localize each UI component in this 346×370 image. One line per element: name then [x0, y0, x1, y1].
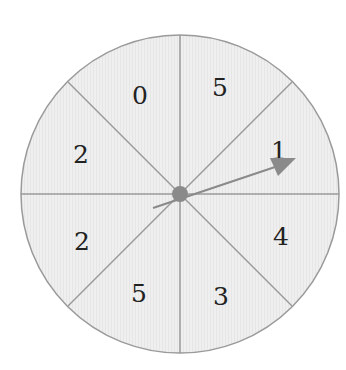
section-label-0: 0	[132, 81, 148, 110]
section-label-7: 2	[73, 140, 89, 169]
section-label-6: 2	[74, 227, 90, 256]
section-label-1: 5	[212, 73, 228, 102]
section-label-4: 3	[213, 282, 229, 311]
section-label-5: 5	[131, 279, 147, 308]
section-label-3: 4	[273, 222, 289, 251]
spinner-diagram: 0 5 1 4 3 5 2 2	[0, 0, 346, 370]
pivot-icon	[172, 186, 188, 202]
